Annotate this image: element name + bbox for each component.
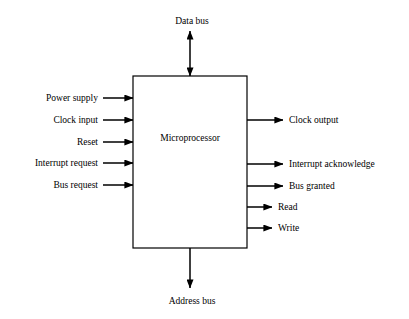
output-label: Bus granted xyxy=(289,181,335,192)
output-label: Read xyxy=(278,202,298,213)
input-label: Interrupt request xyxy=(35,158,98,169)
input-arrow-group xyxy=(103,98,133,185)
microprocessor-label: Microprocessor xyxy=(160,133,220,143)
output-label: Interrupt acknowledge xyxy=(289,159,375,170)
input-label: Power supply xyxy=(46,93,98,104)
input-label: Clock input xyxy=(53,115,98,126)
input-label: Bus request xyxy=(53,180,98,191)
output-label: Clock output xyxy=(289,115,338,126)
input-label: Reset xyxy=(77,137,98,148)
diagram-canvas: Microprocessor Data bus Address bus Powe… xyxy=(0,0,409,319)
data-bus-label: Data bus xyxy=(175,16,209,27)
output-label: Write xyxy=(278,223,299,234)
address-bus-label: Address bus xyxy=(169,296,216,307)
microprocessor-box xyxy=(133,76,247,248)
